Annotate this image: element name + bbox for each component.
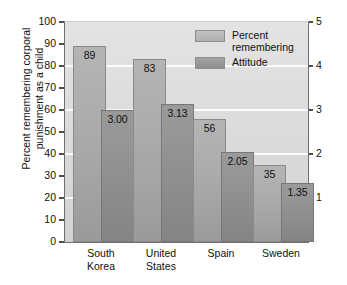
left-tick-label-40: 40 xyxy=(30,148,56,159)
category-label-sweden: Sweden xyxy=(252,247,310,260)
plot-area: 89 3.00 83 3.13 56 xyxy=(64,21,309,243)
bar-value-attitude-spain: 2.05 xyxy=(222,156,253,167)
left-tick-label-20: 20 xyxy=(30,192,56,203)
right-tick-label-4: 4 xyxy=(316,60,332,71)
bar-value-attitude-united-states: 3.13 xyxy=(162,108,193,119)
bar-value-percent-united-states: 83 xyxy=(134,63,165,74)
legend-item-attitude[interactable]: Attitude xyxy=(195,56,303,69)
right-tick-label-3: 3 xyxy=(316,104,332,115)
right-tick-label-1: 1 xyxy=(316,192,332,203)
x-axis-category-labels: South Korea United States Spain Sweden xyxy=(64,247,309,281)
left-tick-label-80: 80 xyxy=(30,60,56,71)
bar-group-south-korea: 89 3.00 xyxy=(73,22,131,242)
category-label-south-korea: South Korea xyxy=(72,247,130,273)
bar-group-united-states: 83 3.13 xyxy=(133,22,191,242)
bar-value-attitude-south-korea: 3.00 xyxy=(102,114,133,125)
legend-label-attitude: Attitude xyxy=(232,56,268,68)
category-label-united-states: United States xyxy=(132,247,190,273)
bar-value-attitude-sweden: 1.35 xyxy=(282,187,313,198)
chart-legend: Percent remembering Attitude xyxy=(195,29,303,72)
bar-value-percent-spain: 56 xyxy=(194,123,225,134)
left-tick-label-50: 50 xyxy=(30,126,56,137)
right-tick-label-2: 2 xyxy=(316,148,332,159)
left-tick-label-0: 0 xyxy=(30,236,56,247)
category-label-spain: Spain xyxy=(192,247,250,260)
left-tick-label-70: 70 xyxy=(30,82,56,93)
bar-attitude-united-states[interactable]: 3.13 xyxy=(161,104,194,242)
left-tick-label-100: 100 xyxy=(30,16,56,27)
bar-attitude-spain[interactable]: 2.05 xyxy=(221,152,254,242)
right-tick-label-5: 5 xyxy=(316,16,332,27)
chart-figure: Percent remembering corporal punishment … xyxy=(0,0,347,285)
left-tick-label-10: 10 xyxy=(30,214,56,225)
bar-attitude-south-korea[interactable]: 3.00 xyxy=(101,110,134,242)
percent-swatch-icon xyxy=(195,30,225,42)
left-tick-label-30: 30 xyxy=(30,170,56,181)
legend-label-percent-remembering: Percent remembering xyxy=(232,29,294,53)
left-tick-label-90: 90 xyxy=(30,38,56,49)
attitude-swatch-icon xyxy=(195,57,225,69)
bar-value-percent-south-korea: 89 xyxy=(74,50,105,61)
bar-attitude-sweden[interactable]: 1.35 xyxy=(281,183,314,242)
bar-value-percent-sweden: 35 xyxy=(254,169,285,180)
legend-item-percent-remembering[interactable]: Percent remembering xyxy=(195,29,303,53)
left-tick-label-60: 60 xyxy=(30,104,56,115)
